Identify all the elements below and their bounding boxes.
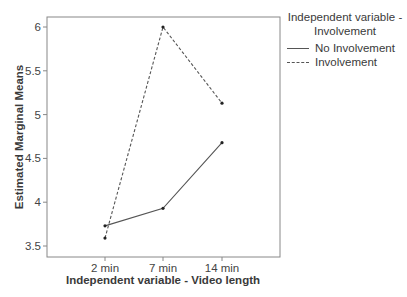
y-tick-label: 3.5 (25, 240, 41, 252)
x-axis-ticks: 2 min7 min14 min (91, 257, 239, 274)
legend-title-line-2: Involvement (283, 24, 407, 38)
data-point-marker (161, 207, 164, 210)
y-tick-label: 4.5 (25, 152, 41, 164)
data-point-marker (220, 102, 223, 105)
plot-frame (47, 17, 280, 257)
x-tick-label: 2 min (91, 262, 119, 274)
legend-title-line-1: Independent variable - (283, 10, 407, 24)
y-axis-ticks: 3.544.555.56 (25, 21, 47, 252)
legend-label: No Involvement (315, 42, 395, 54)
y-tick-label: 5.5 (25, 65, 41, 77)
data-point-marker (161, 25, 164, 28)
x-axis-label: Independent variable - Video length (66, 274, 260, 286)
legend-item-no-involvement: No Involvement (287, 41, 407, 55)
legend-title: Independent variable - Involvement (283, 10, 407, 38)
legend-label: Involvement (315, 56, 377, 68)
data-point-marker (103, 237, 106, 240)
legend-item-involvement: Involvement (287, 55, 407, 69)
data-point-marker (103, 224, 106, 227)
legend: Independent variable - Involvement No In… (283, 10, 407, 69)
involvement-line (105, 27, 222, 238)
x-tick-label: 14 min (205, 262, 240, 274)
y-tick-label: 4 (35, 196, 42, 208)
dashed-line-swatch-icon (287, 62, 309, 63)
data-series (103, 25, 223, 239)
y-tick-label: 5 (35, 109, 41, 121)
data-point-marker (220, 141, 223, 144)
no-involvement-line (105, 143, 222, 226)
x-tick-label: 7 min (149, 262, 177, 274)
y-tick-label: 6 (35, 21, 41, 33)
solid-line-swatch-icon (287, 48, 309, 49)
y-axis-label: Estimated Marginal Means (13, 65, 25, 209)
